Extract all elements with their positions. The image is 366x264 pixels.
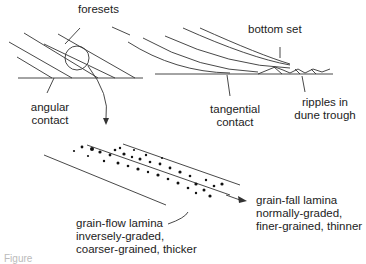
label-grain-flow: grain-flow lamina inversely-graded, coar… bbox=[76, 217, 197, 256]
label-ripples: ripples in dune trough bbox=[290, 96, 360, 122]
label-tangential-contact: tangential contact bbox=[205, 103, 265, 129]
label-foresets: foresets bbox=[78, 3, 119, 16]
figure-caption: Figure bbox=[4, 253, 32, 264]
magnifier-circle bbox=[65, 46, 89, 70]
tangential-leader bbox=[227, 75, 230, 96]
foreset-leader bbox=[65, 28, 80, 44]
label-bottom-set: bottom set bbox=[248, 23, 302, 36]
angular-leader bbox=[47, 78, 54, 93]
label-grain-fall: grain-fall lamina normally-graded, finer… bbox=[256, 194, 362, 233]
label-angular-contact: angular contact bbox=[20, 101, 80, 127]
ripples bbox=[258, 67, 330, 74]
arrow-head bbox=[103, 118, 109, 125]
ripples-leader bbox=[302, 76, 305, 92]
